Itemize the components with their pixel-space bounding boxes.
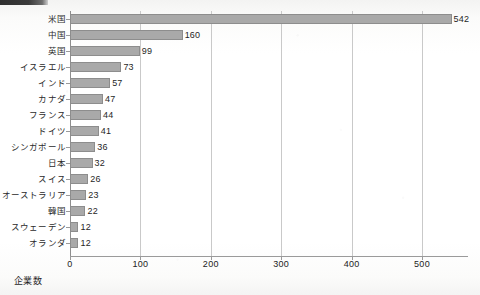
bar-value-label: 73 xyxy=(123,59,133,75)
bar[interactable] xyxy=(70,62,121,72)
bar-value-label: 26 xyxy=(90,171,100,187)
bar[interactable] xyxy=(70,238,78,248)
category-label: インド xyxy=(0,75,66,91)
scanned-page: 米国542中国160英国99イスラエル73インド57カナダ47フランス44ドイツ… xyxy=(0,0,480,295)
bar-row: スイス26 xyxy=(0,171,480,187)
category-label: 日本 xyxy=(0,155,66,171)
bar-row: 米国542 xyxy=(0,11,480,27)
bar[interactable] xyxy=(70,78,110,88)
bar-value-label: 41 xyxy=(101,123,111,139)
bar[interactable] xyxy=(70,14,452,24)
x-tick-label: 0 xyxy=(50,259,90,269)
horizontal-bar-chart: 米国542中国160英国99イスラエル73インド57カナダ47フランス44ドイツ… xyxy=(0,0,480,295)
x-tick-label: 500 xyxy=(402,259,442,269)
bar-row: カナダ47 xyxy=(0,91,480,107)
bar[interactable] xyxy=(70,142,95,152)
category-label: 米国 xyxy=(0,11,66,27)
category-label: ドイツ xyxy=(0,123,66,139)
category-label: フランス xyxy=(0,107,66,123)
bar-row: スウェーデン12 xyxy=(0,219,480,235)
bar-value-label: 542 xyxy=(454,11,470,27)
scan-edge-artifact xyxy=(0,0,48,5)
bar-row: オランダ12 xyxy=(0,235,480,251)
bar-value-label: 32 xyxy=(95,155,105,171)
bar[interactable] xyxy=(70,190,86,200)
bar-value-label: 44 xyxy=(103,107,113,123)
bar-row: 韓国22 xyxy=(0,203,480,219)
bar-row: 英国99 xyxy=(0,43,480,59)
bar-value-label: 12 xyxy=(80,219,90,235)
bar-row: 中国160 xyxy=(0,27,480,43)
bar[interactable] xyxy=(70,174,88,184)
bar-value-label: 57 xyxy=(112,75,122,91)
category-label: 中国 xyxy=(0,27,66,43)
bar-row: インド57 xyxy=(0,75,480,91)
bar-value-label: 99 xyxy=(142,43,152,59)
bar-row: ドイツ41 xyxy=(0,123,480,139)
category-label: オーストラリア xyxy=(0,187,66,203)
bar-value-label: 12 xyxy=(80,235,90,251)
x-axis-line xyxy=(70,256,468,257)
bar-row: オーストラリア23 xyxy=(0,187,480,203)
category-label: スウェーデン xyxy=(0,219,66,235)
bar-value-label: 47 xyxy=(105,91,115,107)
x-axis-title: 企業数 xyxy=(0,274,480,287)
bar-row: イスラエル73 xyxy=(0,59,480,75)
bar[interactable] xyxy=(70,110,101,120)
bar-value-label: 23 xyxy=(88,187,98,203)
bar[interactable] xyxy=(70,30,183,40)
bar[interactable] xyxy=(70,94,103,104)
bar-row: 日本32 xyxy=(0,155,480,171)
bar[interactable] xyxy=(70,126,99,136)
x-tick-label: 200 xyxy=(191,259,231,269)
category-label: シンガポール xyxy=(0,139,66,155)
category-label: 韓国 xyxy=(0,203,66,219)
bar-row: フランス44 xyxy=(0,107,480,123)
bar-row: シンガポール36 xyxy=(0,139,480,155)
x-tick-label: 100 xyxy=(120,259,160,269)
x-axis-title-label: 企業数 xyxy=(14,276,42,286)
bar[interactable] xyxy=(70,158,93,168)
category-label: 英国 xyxy=(0,43,66,59)
bar-value-label: 36 xyxy=(97,139,107,155)
category-label: オランダ xyxy=(0,235,66,251)
bar-value-label: 22 xyxy=(87,203,97,219)
category-label: イスラエル xyxy=(0,59,66,75)
category-label: カナダ xyxy=(0,91,66,107)
x-tick-label: 300 xyxy=(261,259,301,269)
x-tick-label: 400 xyxy=(332,259,372,269)
bar-value-label: 160 xyxy=(185,27,201,43)
bar[interactable] xyxy=(70,206,85,216)
category-label: スイス xyxy=(0,171,66,187)
bar[interactable] xyxy=(70,46,140,56)
bar[interactable] xyxy=(70,222,78,232)
